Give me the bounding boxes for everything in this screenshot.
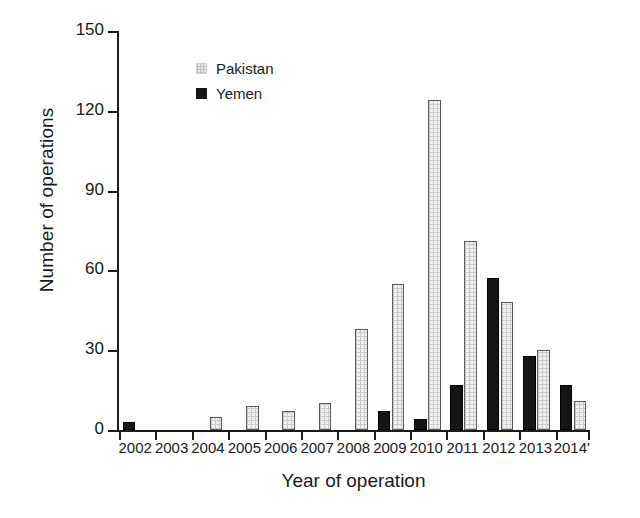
plot-area: 0306090120150 20022003200420052006200720… [117,31,590,431]
y-tick-label-150: 150 [60,20,104,40]
x-tick-label-2003: 2003 [155,439,188,456]
bar-pakistan-2012 [501,302,514,430]
y-tick-120 [108,111,118,113]
legend-label-pakistan: Pakistan [216,58,274,79]
legend-label-yemen: Yemen [216,83,262,104]
bar-pakistan-2006 [282,411,295,430]
x-tick-label-2008: 2008 [337,439,370,456]
bar-yemen-2013 [523,356,536,430]
bar-pakistan-2009 [392,284,405,430]
x-axis-title: Year of operation [117,470,590,492]
bar-pakistan-2010 [428,100,441,430]
y-axis-title: Number of operations [36,65,58,335]
y-axis-line [117,31,119,431]
bar-yemen-2010 [414,419,427,430]
x-tick-label-2004: 2004 [191,439,224,456]
bar-pakistan-2013 [537,350,550,430]
legend-item-yemen: Yemen [196,83,274,104]
x-tick-label-2012: 2012 [482,439,515,456]
legend-item-pakistan: Pakistan [196,58,274,79]
y-tick-60 [108,270,118,272]
legend-swatch-icon-pakistan [196,63,207,74]
y-tick-label-30: 30 [60,339,104,359]
bar-pakistan-2008 [355,329,368,430]
bar-pakistan-2005 [246,406,259,430]
y-tick-30 [108,350,118,352]
y-tick-label-60: 60 [60,259,104,279]
x-tick-label-2013: 2013 [519,439,552,456]
x-tick-label-2007: 2007 [300,439,333,456]
bar-yemen-2012 [487,278,500,430]
y-tick-label-90: 90 [60,180,104,200]
bar-pakistan-2014 [574,401,587,430]
y-tick-label-0: 0 [60,419,104,439]
bar-pakistan-2011 [464,241,477,430]
bar-yemen-2014 [560,385,573,430]
y-tick-label-120: 120 [60,100,104,120]
x-tick-label-2010: 2010 [410,439,443,456]
x-tick-label-2009: 2009 [373,439,406,456]
x-tick-label-2002: 2002 [119,439,152,456]
x-tick-label-2011: 2011 [447,439,479,456]
y-tick-0 [108,430,118,432]
bar-pakistan-2007 [319,403,332,430]
chart-legend: PakistanYemen [196,58,274,108]
legend-swatch-icon-yemen [196,88,207,99]
bar-yemen-2011 [450,385,463,430]
x-tick-label-2006: 2006 [264,439,297,456]
y-tick-90 [108,191,118,193]
y-tick-150 [108,31,118,33]
x-tick-label-2005: 2005 [228,439,261,456]
bar-yemen-2002 [123,422,136,430]
bar-chart-figure: Number of operations 0306090120150 20022… [0,0,640,518]
bar-pakistan-2004 [210,417,223,430]
bar-yemen-2009 [378,411,391,430]
x-tick-label-2014: 2014' [554,439,590,456]
